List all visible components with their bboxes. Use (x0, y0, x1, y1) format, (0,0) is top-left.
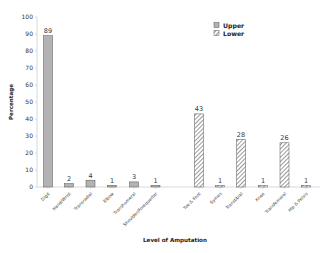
legend-swatch-upper (214, 23, 219, 28)
axes: 0102030405060708090100 (22, 13, 320, 190)
bar-lower (216, 185, 225, 187)
x-tick-label: Hip & Pelvis (287, 191, 309, 213)
data-label: 26 (280, 134, 288, 142)
bar-upper (151, 185, 160, 187)
y-tick-label: 30 (25, 132, 33, 139)
data-label: 89 (44, 27, 52, 35)
bars (44, 36, 311, 187)
x-tick-label: Toe & Foot (182, 191, 202, 211)
x-tick-label: Transradial (72, 191, 93, 212)
bar-lower (302, 185, 311, 187)
data-label: 4 (88, 172, 92, 180)
bar-upper (86, 180, 95, 187)
data-label: 1 (261, 177, 265, 185)
data-label: 1 (153, 177, 157, 185)
x-tick-label: Transfemoral (263, 191, 287, 215)
bar-upper (130, 182, 139, 187)
x-tick-label: Transtibial (224, 191, 244, 211)
labels: 89Digit2Hand/Wrist4Transradial1Elbow3Tra… (40, 27, 309, 227)
data-label: 3 (132, 173, 136, 181)
data-label: 28 (237, 131, 245, 139)
legend: UpperLower (214, 22, 245, 37)
y-tick-label: 100 (22, 13, 34, 20)
legend-label-lower: Lower (223, 30, 245, 37)
bar-upper (44, 36, 53, 187)
y-tick-label: 60 (25, 81, 33, 88)
data-label: 2 (67, 175, 71, 183)
data-label: 43 (195, 105, 203, 113)
x-tick-label: Digit (40, 191, 51, 202)
x-tick-label: Knee (255, 191, 266, 202)
y-tick-label: 80 (25, 47, 33, 54)
y-tick-label: 90 (25, 30, 33, 37)
x-tick-label: Symes (209, 191, 223, 205)
data-label: 1 (218, 177, 222, 185)
bar-upper (65, 184, 74, 187)
data-label: 1 (304, 177, 308, 185)
bar-lower (280, 143, 289, 187)
bar-lower (195, 114, 204, 187)
bar-upper (108, 185, 117, 187)
legend-label-upper: Upper (223, 22, 245, 30)
legend-swatch-lower (214, 31, 219, 36)
x-tick-label: Elbow (102, 191, 115, 204)
bar-lower (237, 139, 246, 187)
x-tick-label: Hand/Wrist (51, 191, 72, 212)
bar-chart: 0102030405060708090100 89Digit2Hand/Wris… (0, 0, 327, 253)
bar-lower (259, 185, 268, 187)
y-axis-title: Percentage (8, 84, 15, 120)
data-label: 1 (110, 177, 114, 185)
y-tick-label: 70 (25, 64, 33, 71)
y-tick-label: 0 (29, 183, 33, 190)
y-tick-label: 20 (25, 149, 33, 156)
y-tick-label: 40 (25, 115, 33, 122)
y-tick-label: 50 (25, 98, 33, 105)
y-tick-label: 10 (25, 166, 33, 173)
x-axis-title: Level of Amputation (143, 237, 207, 244)
